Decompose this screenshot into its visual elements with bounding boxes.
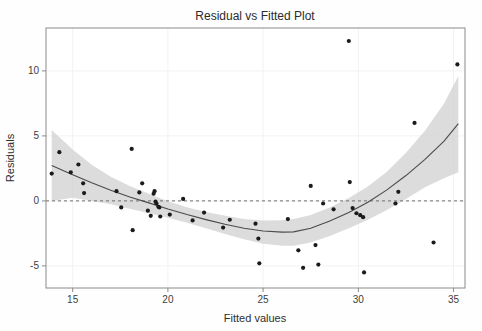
- x-tick-label: 30: [353, 294, 365, 305]
- x-tick-label: 15: [67, 294, 79, 305]
- data-point: [286, 217, 290, 221]
- data-point: [50, 172, 54, 176]
- data-point: [158, 214, 162, 218]
- data-point: [114, 189, 118, 193]
- data-point: [455, 62, 459, 66]
- data-point: [140, 181, 144, 185]
- data-point: [396, 190, 400, 194]
- data-point: [221, 225, 225, 229]
- data-point: [149, 214, 153, 218]
- data-point: [321, 201, 325, 205]
- data-point: [347, 39, 351, 43]
- y-tick-label: 5: [33, 130, 39, 141]
- data-point: [119, 205, 123, 209]
- y-tick-label: 10: [28, 65, 40, 76]
- data-point: [146, 209, 150, 213]
- data-point: [331, 207, 335, 211]
- data-point: [137, 190, 141, 194]
- x-tick-label: 20: [162, 294, 174, 305]
- data-point: [131, 228, 135, 232]
- chart-title: Residual vs Fitted Plot: [195, 9, 315, 23]
- data-point: [181, 197, 185, 201]
- x-tick-label: 35: [448, 294, 460, 305]
- data-point: [157, 205, 161, 209]
- data-point: [130, 147, 134, 151]
- y-axis-title: Residuals: [4, 133, 16, 182]
- data-point: [152, 189, 156, 193]
- x-axis-ticks: 1520253035: [67, 288, 459, 305]
- data-point: [412, 121, 416, 125]
- data-point: [69, 170, 73, 174]
- data-point: [82, 191, 86, 195]
- data-point: [76, 162, 80, 166]
- data-point: [168, 212, 172, 216]
- residual-vs-fitted-chart: 1520253035 -50510 Residual vs Fitted Plo…: [0, 0, 482, 331]
- data-point: [362, 270, 366, 274]
- data-point: [228, 218, 232, 222]
- figure-canvas: 1520253035 -50510 Residual vs Fitted Plo…: [0, 0, 482, 331]
- data-point: [309, 184, 313, 188]
- data-point: [431, 240, 435, 244]
- y-axis-ticks: -50510: [28, 65, 46, 271]
- data-point: [296, 248, 300, 252]
- data-point: [313, 243, 317, 247]
- data-point: [316, 263, 320, 267]
- y-tick-label: -5: [30, 260, 39, 271]
- data-point: [354, 211, 358, 215]
- x-tick-label: 25: [258, 294, 270, 305]
- data-point: [393, 201, 397, 205]
- data-point: [257, 261, 261, 265]
- data-point: [348, 180, 352, 184]
- data-point: [256, 237, 260, 241]
- data-point: [351, 206, 355, 210]
- data-point: [81, 181, 85, 185]
- data-point: [191, 218, 195, 222]
- data-point: [361, 215, 365, 219]
- y-tick-label: 0: [33, 195, 39, 206]
- data-point: [57, 150, 61, 154]
- data-point: [301, 266, 305, 270]
- data-point: [202, 211, 206, 215]
- data-point: [253, 222, 257, 226]
- x-axis-title: Fitted values: [224, 312, 287, 324]
